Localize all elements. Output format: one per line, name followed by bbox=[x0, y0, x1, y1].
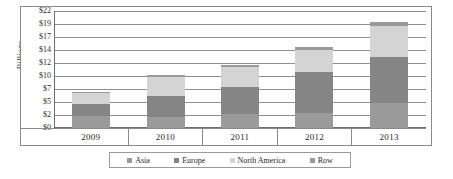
legend-item[interactable]: Asia bbox=[127, 156, 150, 165]
y-axis-tick-label: $17 bbox=[24, 32, 51, 42]
bar-group bbox=[54, 11, 426, 128]
legend-label: Row bbox=[318, 156, 333, 165]
y-axis-tick-label: $10 bbox=[24, 71, 51, 81]
legend-swatch-icon bbox=[127, 158, 132, 163]
stacked-bar[interactable] bbox=[72, 92, 110, 128]
bar-slot bbox=[203, 11, 277, 128]
bar-segment bbox=[221, 67, 259, 87]
bar-segment bbox=[295, 50, 333, 72]
bar-segment bbox=[295, 113, 333, 128]
bar-segment bbox=[221, 114, 259, 128]
bar-segment bbox=[370, 26, 408, 56]
stacked-bar[interactable] bbox=[221, 65, 259, 128]
bar-segment bbox=[370, 103, 408, 128]
legend-label: North America bbox=[238, 156, 286, 165]
bar-segment bbox=[221, 87, 259, 114]
bar-segment bbox=[147, 117, 185, 128]
bar-segment bbox=[295, 72, 333, 113]
x-axis-corner-cell bbox=[20, 128, 54, 145]
x-axis-tick-label: 2012 bbox=[278, 129, 353, 145]
bar-segment bbox=[370, 57, 408, 103]
plot-area bbox=[54, 11, 426, 128]
chart-legend: AsiaEuropeNorth AmericaRow bbox=[109, 152, 351, 168]
x-axis-tick-label: 2011 bbox=[203, 129, 278, 145]
y-axis-tick-label: $2 bbox=[24, 110, 51, 120]
legend-swatch-icon bbox=[310, 158, 315, 163]
legend-item[interactable]: Europe bbox=[174, 156, 205, 165]
bar-slot bbox=[128, 11, 202, 128]
y-axis-tick-label: $5 bbox=[24, 97, 51, 107]
y-axis-tick-label: $22 bbox=[24, 6, 51, 16]
stacked-bar[interactable] bbox=[370, 22, 408, 128]
legend-label: Europe bbox=[182, 156, 205, 165]
chart-container: Billions $22$19$17$14$12$10$7$5$2$0 2009… bbox=[0, 0, 453, 179]
bar-segment bbox=[147, 77, 185, 96]
x-axis-category-labels: 20092010201120122013 bbox=[54, 128, 426, 145]
x-axis-tick-label: 2010 bbox=[129, 129, 204, 145]
bar-slot bbox=[277, 11, 351, 128]
y-axis-tick-label: $19 bbox=[24, 19, 51, 29]
bar-segment bbox=[72, 104, 110, 116]
bar-slot bbox=[54, 11, 128, 128]
stacked-bar[interactable] bbox=[147, 75, 185, 128]
legend-item[interactable]: Row bbox=[310, 156, 333, 165]
legend-swatch-icon bbox=[230, 158, 235, 163]
legend-item[interactable]: North America bbox=[230, 156, 286, 165]
y-axis-tick-labels: $22$19$17$14$12$10$7$5$2$0 bbox=[24, 6, 51, 128]
bar-segment bbox=[72, 93, 110, 104]
y-axis-tick-label: $12 bbox=[24, 58, 51, 68]
bar-segment bbox=[147, 96, 185, 117]
bar-segment bbox=[72, 116, 110, 128]
x-axis-tick-label: 2009 bbox=[54, 129, 129, 145]
y-axis-tick-label: $7 bbox=[24, 84, 51, 94]
x-axis-tick-label: 2013 bbox=[352, 129, 426, 145]
stacked-bar[interactable] bbox=[295, 47, 333, 128]
legend-label: Asia bbox=[135, 156, 150, 165]
bar-slot bbox=[352, 11, 426, 128]
y-axis-tick-label: $14 bbox=[24, 45, 51, 55]
legend-swatch-icon bbox=[174, 158, 179, 163]
